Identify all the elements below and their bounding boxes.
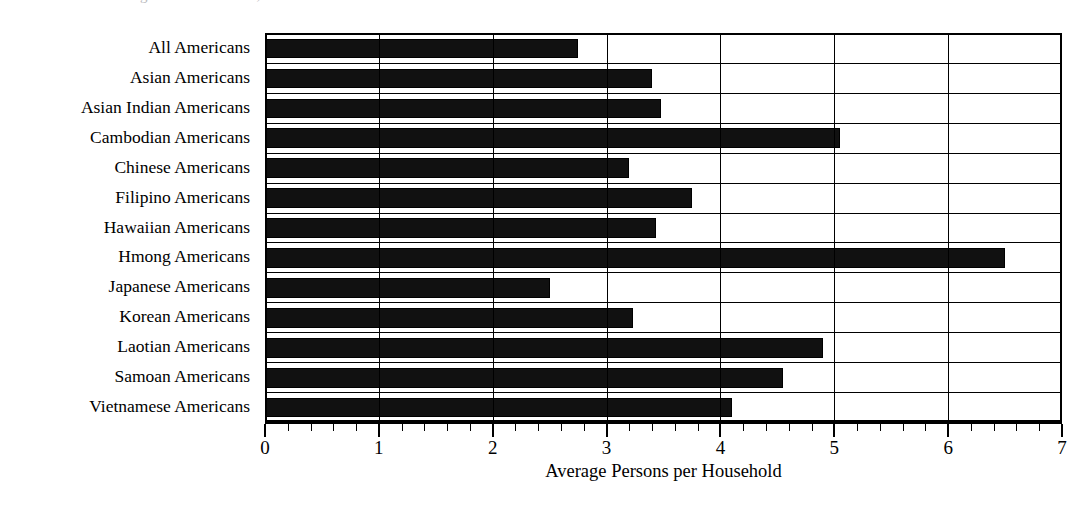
x-axis-minor-tick: [903, 424, 904, 431]
x-axis-minor-tick: [1039, 424, 1040, 431]
x-axis-minor-tick: [470, 424, 471, 431]
x-axis-minor-tick: [675, 424, 676, 431]
x-axis-minor-tick: [584, 424, 585, 431]
y-axis-tick-label: All Americans: [0, 39, 258, 57]
x-axis-minor-tick: [1016, 424, 1017, 431]
bar: [265, 158, 629, 178]
bar: [265, 69, 652, 89]
x-axis-line: 01234567: [265, 422, 1062, 424]
x-axis-tick-label: 0: [245, 438, 285, 457]
x-axis-major-tick: [606, 424, 608, 437]
x-axis-minor-tick: [812, 424, 813, 431]
gridline-vertical: [720, 33, 721, 422]
bar: [265, 39, 578, 59]
x-axis-tick-label: 3: [587, 438, 627, 457]
x-axis-minor-tick: [447, 424, 448, 431]
gridline-horizontal: [265, 153, 1062, 154]
x-axis-tick-label: 1: [359, 438, 399, 457]
bar: [265, 248, 1005, 268]
y-axis-tick-label: Vietnamese Americans: [0, 398, 258, 416]
y-axis-tick-label: Asian Americans: [0, 69, 258, 87]
x-axis-tick-label: 7: [1042, 438, 1082, 457]
x-axis-minor-tick: [288, 424, 289, 431]
x-axis-major-tick: [833, 424, 835, 437]
bar: [265, 308, 633, 328]
gridline-horizontal: [265, 213, 1062, 214]
x-axis-minor-tick: [333, 424, 334, 431]
gridline-horizontal: [265, 63, 1062, 64]
x-axis-minor-tick: [698, 424, 699, 431]
gridline-vertical: [834, 33, 835, 422]
gridline-vertical: [379, 33, 380, 422]
bar-chart-figure: ousehold size among Asian Americans, 200…: [0, 0, 1088, 520]
gridline-vertical: [607, 33, 608, 422]
y-axis-tick-label: Korean Americans: [0, 308, 258, 326]
bar: [265, 278, 550, 298]
bar: [265, 338, 823, 358]
bar: [265, 218, 656, 238]
gridline-horizontal: [265, 362, 1062, 363]
x-axis-tick-label: 5: [814, 438, 854, 457]
x-axis-minor-tick: [994, 424, 995, 431]
y-axis-category-labels: All AmericansAsian AmericansAsian Indian…: [0, 33, 258, 422]
chart-title-cropped: ousehold size among Asian Americans, 200…: [0, 0, 1088, 3]
gridline-horizontal: [265, 242, 1062, 243]
gridline-vertical: [948, 33, 949, 422]
x-axis-minor-tick: [971, 424, 972, 431]
gridline-horizontal: [265, 302, 1062, 303]
y-axis-tick-label: Samoan Americans: [0, 368, 258, 386]
x-axis-minor-tick: [402, 424, 403, 431]
y-axis-tick-label: Asian Indian Americans: [0, 99, 258, 117]
y-axis-tick-label: Filipino Americans: [0, 189, 258, 207]
x-axis-minor-tick: [880, 424, 881, 431]
bar: [265, 188, 692, 208]
gridline-horizontal: [265, 93, 1062, 94]
x-axis-minor-tick: [356, 424, 357, 431]
plot-area: [265, 33, 1062, 422]
x-axis-minor-tick: [766, 424, 767, 431]
y-axis-tick-label: Chinese Americans: [0, 159, 258, 177]
gridline-horizontal: [265, 392, 1062, 393]
x-axis-major-tick: [1061, 424, 1063, 437]
x-axis-minor-tick: [652, 424, 653, 431]
x-axis-major-tick: [947, 424, 949, 437]
x-axis-major-tick: [264, 424, 266, 437]
x-axis-minor-tick: [857, 424, 858, 431]
y-axis-tick-label: Cambodian Americans: [0, 129, 258, 147]
x-axis-major-tick: [378, 424, 380, 437]
x-axis-minor-tick: [629, 424, 630, 431]
x-axis-tick-label: 2: [473, 438, 513, 457]
bar: [265, 368, 783, 388]
x-axis-tick-label: 6: [928, 438, 968, 457]
gridline-horizontal: [265, 123, 1062, 124]
x-axis-minor-tick: [743, 424, 744, 431]
x-axis-major-tick: [492, 424, 494, 437]
bar: [265, 398, 732, 418]
x-axis-major-tick: [719, 424, 721, 437]
gridline-horizontal: [265, 332, 1062, 333]
x-axis-minor-tick: [925, 424, 926, 431]
bar: [265, 99, 661, 119]
gridline-horizontal: [265, 183, 1062, 184]
x-axis-title: Average Persons per Household: [265, 462, 1062, 481]
x-axis-minor-tick: [311, 424, 312, 431]
x-axis-minor-tick: [789, 424, 790, 431]
y-axis-tick-label: Hawaiian Americans: [0, 219, 258, 237]
gridline-vertical: [493, 33, 494, 422]
gridline-horizontal: [265, 272, 1062, 273]
x-axis-minor-tick: [538, 424, 539, 431]
x-axis-tick-label: 4: [700, 438, 740, 457]
y-axis-tick-label: Laotian Americans: [0, 338, 258, 356]
bar: [265, 128, 840, 148]
x-axis-minor-tick: [515, 424, 516, 431]
x-axis-minor-tick: [424, 424, 425, 431]
y-axis-tick-label: Hmong Americans: [0, 248, 258, 266]
x-axis-minor-tick: [561, 424, 562, 431]
y-axis-tick-label: Japanese Americans: [0, 278, 258, 296]
